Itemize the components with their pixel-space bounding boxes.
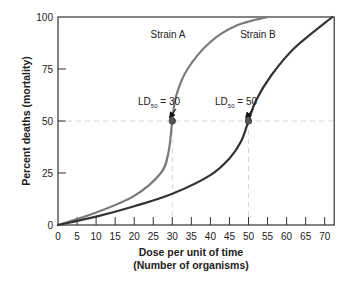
x-tick-label: 70 [319,231,331,242]
x-tick-label: 15 [110,231,122,242]
x-tick-label: 5 [74,231,80,242]
x-tick-label: 0 [55,231,61,242]
x-tick-label: 20 [129,231,141,242]
y-tick-label: 0 [47,220,53,231]
curve-label: Strain B [240,29,276,40]
y-axis-title: Percent deaths (mortality) [20,56,32,186]
ld50-chart: 0255075100 0510152025303540455055606570 … [0,0,354,286]
x-tick-label: 65 [300,231,312,242]
x-tick-label: 35 [186,231,198,242]
curve-label: Strain A [150,29,185,40]
x-tick-label: 30 [167,231,179,242]
y-tick-label: 100 [36,12,53,23]
x-tick-label: 50 [243,231,255,242]
y-tick-label: 50 [42,116,54,127]
x-axis-subtitle: (Number of organisms) [133,259,249,271]
ld50-point [245,118,251,124]
ld50-label: LD50 = 50 [215,96,257,109]
x-tick-label: 45 [224,231,236,242]
y-tick-label: 25 [42,168,54,179]
x-axis-ticks: 0510152025303540455055606570 [55,217,330,242]
x-tick-label: 10 [91,231,103,242]
x-tick-label: 55 [262,231,274,242]
annotations: LD50 = 30LD50 = 50 [138,96,257,118]
x-tick-label: 60 [281,231,293,242]
y-tick-label: 75 [42,64,54,75]
x-tick-label: 40 [205,231,217,242]
ld50-point [169,118,175,124]
reference-lines [58,121,334,225]
y-axis-ticks: 0255075100 [36,12,66,231]
x-axis-title: Dose per unit of time [139,246,244,258]
x-tick-label: 25 [148,231,160,242]
